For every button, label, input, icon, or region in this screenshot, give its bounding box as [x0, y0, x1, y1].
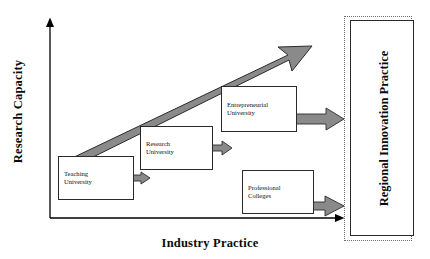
y-axis-label: Research Capacity — [11, 52, 26, 172]
node-professional-colleges-label: Professional Colleges — [248, 184, 281, 201]
diagram-canvas: Research Capacity Industry Practice Teac… — [0, 0, 430, 259]
node-research-university-label: Research University — [146, 140, 174, 157]
regional-innovation-practice-label: Regional Innovation Practice — [377, 34, 392, 224]
node-teaching-university-label: Teaching University — [64, 170, 92, 187]
node-research-university[interactable]: Research University — [140, 126, 213, 170]
node-entrepreneurial-university-label: Entrepreneurial University — [227, 101, 268, 118]
node-teaching-university[interactable]: Teaching University — [58, 156, 134, 200]
x-axis-label: Industry Practice — [120, 236, 300, 251]
node-entrepreneurial-university[interactable]: Entrepreneurial University — [221, 86, 297, 132]
node-professional-colleges[interactable]: Professional Colleges — [242, 170, 314, 214]
regional-innovation-practice-panel[interactable]: Regional Innovation Practice — [350, 20, 414, 236]
